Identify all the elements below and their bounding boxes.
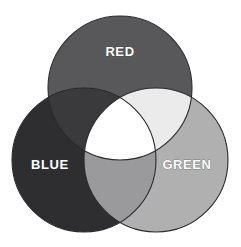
label-red: RED bbox=[105, 44, 134, 59]
label-green: GREEN bbox=[162, 157, 211, 172]
venn-diagram-canvas: RED BLUE GREEN bbox=[0, 0, 241, 247]
venn-diagram: RED BLUE GREEN bbox=[0, 0, 241, 247]
label-blue: BLUE bbox=[31, 157, 69, 172]
